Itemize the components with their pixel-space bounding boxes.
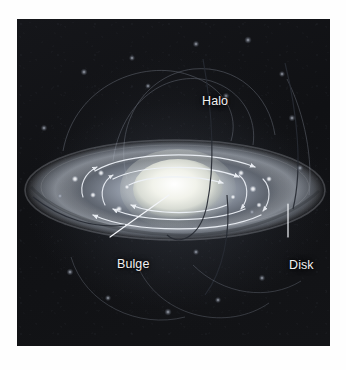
label-bulge: Bulge	[117, 258, 149, 271]
label-disk: Disk	[289, 259, 314, 272]
label-halo: Halo	[202, 95, 228, 108]
galaxy-scene	[17, 19, 330, 346]
space-image-panel: Halo Bulge Disk	[17, 19, 330, 346]
galaxy-structure-figure: Halo Bulge Disk	[0, 0, 346, 370]
